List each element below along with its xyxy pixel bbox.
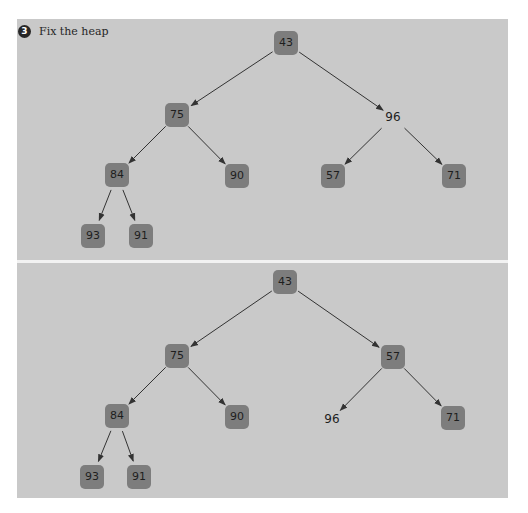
heap-node-before-96: 96 — [381, 105, 405, 129]
heap-node-before-91: 91 — [129, 224, 153, 248]
step-number-badge: 3 — [18, 25, 31, 38]
heap-node-after-90: 90 — [225, 405, 249, 429]
heap-node-before-84: 84 — [105, 163, 129, 187]
diagram-panel-after — [17, 263, 508, 498]
heap-node-before-57: 57 — [321, 164, 345, 188]
heap-node-before-93: 93 — [81, 224, 105, 248]
exercise-title: Fix the heap — [39, 25, 109, 38]
heap-node-after-84: 84 — [105, 404, 129, 428]
heap-node-after-75: 75 — [165, 344, 189, 368]
heap-node-after-96: 96 — [320, 407, 344, 431]
heap-node-before-75: 75 — [165, 103, 189, 127]
heap-node-after-93: 93 — [80, 465, 104, 489]
heap-node-after-71: 71 — [441, 406, 465, 430]
heap-node-after-43: 43 — [273, 270, 297, 294]
heap-node-before-43: 43 — [274, 31, 298, 55]
heap-node-after-91: 91 — [127, 465, 151, 489]
heap-node-before-90: 90 — [225, 164, 249, 188]
heap-node-after-57: 57 — [381, 345, 405, 369]
exercise-heading: 3 Fix the heap — [17, 23, 109, 39]
heap-node-before-71: 71 — [442, 164, 466, 188]
